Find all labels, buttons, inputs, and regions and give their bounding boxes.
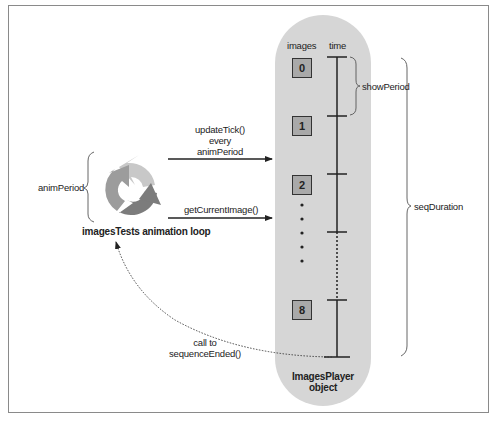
frame-box-2: 2 [292, 175, 312, 195]
loop-title: imagesTests animation loop [82, 226, 211, 237]
update-tick-line-3: animPeriod [180, 146, 260, 157]
images-player-capsule [275, 15, 371, 406]
images-player-title-line-1: ImagesPlayer [283, 371, 363, 382]
update-tick-line-2: every [180, 135, 260, 146]
frame-box-8: 8 [292, 300, 312, 320]
sequence-ended-line-2: sequenceEnded() [160, 348, 250, 359]
seq-duration-brace [401, 58, 411, 356]
anim-period-brace [84, 152, 94, 222]
sequence-ended-label: call to sequenceEnded() [160, 337, 250, 359]
frame-box-1: 1 [292, 116, 312, 136]
images-player-title: ImagesPlayer object [283, 371, 363, 393]
sequence-ended-line-1: call to [160, 337, 250, 348]
update-tick-label: updateTick() every animPeriod [180, 124, 260, 157]
frame-box-0: 0 [292, 58, 312, 78]
refresh-cycle-icon [105, 155, 161, 215]
seq-duration-label: seqDuration [414, 201, 463, 212]
images-player-title-line-2: object [283, 382, 363, 393]
column-images-label: images [287, 40, 316, 51]
anim-period-label: animPeriod [38, 182, 84, 193]
update-tick-line-1: updateTick() [180, 124, 260, 135]
get-current-image-label: getCurrentImage() [184, 204, 258, 215]
column-time-label: time [329, 40, 346, 51]
show-period-label: showPeriod [362, 81, 410, 92]
